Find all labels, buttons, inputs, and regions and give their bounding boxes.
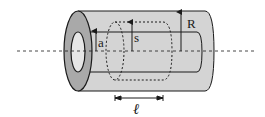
coaxial-cylinder-diagram: a s R ℓ xyxy=(0,0,265,117)
label-length: ℓ xyxy=(133,101,139,117)
label-a: a xyxy=(98,35,104,50)
label-s: s xyxy=(134,30,139,45)
label-R: R xyxy=(187,16,196,31)
